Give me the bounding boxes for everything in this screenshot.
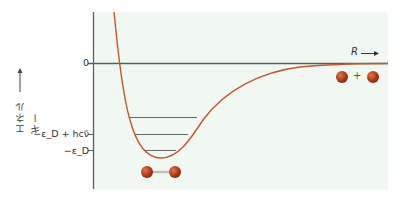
- potential-energy-diagram: [0, 0, 407, 200]
- tick-label-dissociation: −ε_D: [64, 145, 89, 156]
- energy-axis-label: エネルギー: [13, 94, 27, 134]
- molecule-atom-right: [169, 166, 181, 178]
- r-arrow-head: [374, 51, 379, 56]
- tick-label-dissociation-plus-zpe: −ε_D + hcν̃: [33, 128, 89, 139]
- molecule-atom-left: [141, 166, 153, 178]
- potential-energy-curve: [114, 12, 388, 158]
- r-axis-label: R: [351, 46, 358, 57]
- tick-label-zero: 0: [83, 57, 89, 68]
- energy-label-arrow-head: [18, 68, 23, 73]
- separated-atom-left: [336, 71, 348, 83]
- plus-sign: +: [353, 70, 361, 81]
- separated-atom-right: [367, 71, 379, 83]
